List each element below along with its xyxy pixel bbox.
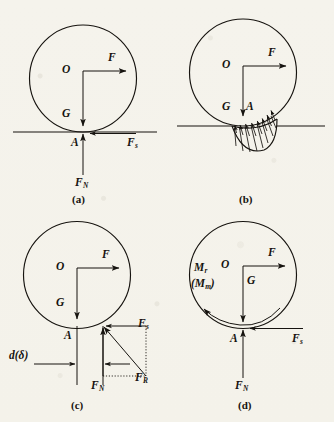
label-center-O-a: O xyxy=(62,64,70,76)
panel-c-graphic xyxy=(0,200,167,422)
figure-canvas: O F G A Fs FN (a) xyxy=(0,0,334,422)
label-normal-FN-d: FN xyxy=(235,380,248,392)
label-contact-A-a: A xyxy=(71,137,79,149)
label-weight-G-c: G xyxy=(56,297,64,309)
panel-d: O Mr (Mm) F G A Fs FN (d) xyxy=(167,200,334,422)
label-weight-G-a: G xyxy=(62,108,70,120)
label-friction-Fs-c: Fs xyxy=(138,318,149,330)
label-friction-Fs-d: Fs xyxy=(292,333,303,345)
label-force-F-b: F xyxy=(268,47,276,59)
label-rolling-moment-d: Mr xyxy=(194,262,207,274)
label-force-F-d: F xyxy=(268,247,276,259)
label-friction-Fs-a: Fs xyxy=(127,137,138,149)
label-center-O-c: O xyxy=(56,261,64,273)
label-resultant-FR-c: FR xyxy=(135,372,148,384)
label-center-O-d: O xyxy=(221,259,229,271)
label-contact-A-b: A xyxy=(246,101,254,113)
caption-d: (d) xyxy=(238,400,251,411)
label-offset-distance-c: d(δ) xyxy=(9,350,28,362)
label-force-F-a: F xyxy=(108,52,116,64)
panel-a-graphic xyxy=(0,0,167,200)
label-contact-A-d: A xyxy=(230,333,238,345)
caption-c: (c) xyxy=(71,400,83,411)
label-max-moment-d: (Mm) xyxy=(191,278,215,290)
panel-d-graphic xyxy=(167,200,334,422)
label-force-F-c: F xyxy=(102,249,110,261)
label-normal-FN-c: FN xyxy=(91,380,104,392)
panel-a: O F G A Fs FN (a) xyxy=(0,0,167,200)
label-center-O-b: O xyxy=(222,59,230,71)
panel-c: O F G A Fs FN FR d(δ) (c) xyxy=(0,200,167,422)
label-weight-G-d: G xyxy=(247,275,255,287)
label-weight-G-b: G xyxy=(222,101,230,113)
force-FR-arrow-c xyxy=(104,327,146,376)
label-normal-FN-a: FN xyxy=(75,177,88,189)
panel-b: O F G A (b) xyxy=(167,0,334,200)
label-contact-A-c: A xyxy=(64,330,72,342)
